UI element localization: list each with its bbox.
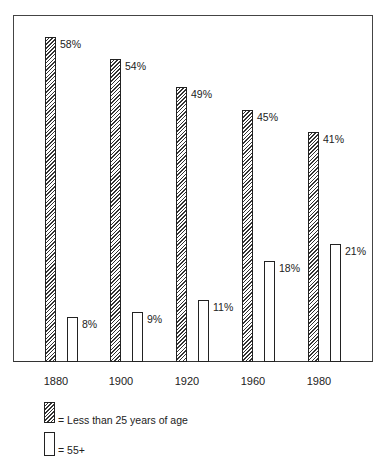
value-label-1960-55-plus: 18% <box>279 262 300 274</box>
x-tick-1900: 1900 <box>101 375 141 387</box>
bar-1960-under-25 <box>242 110 253 362</box>
x-tick-1880: 1880 <box>36 375 76 387</box>
x-tick-1960: 1960 <box>233 375 273 387</box>
legend-label-55-plus: = 55+ <box>58 444 85 456</box>
value-label-1960-under-25: 45% <box>257 111 278 123</box>
value-label-1920-under-25: 49% <box>191 88 212 100</box>
value-label-1900-55-plus: 9% <box>147 313 162 325</box>
bar-1960-55-plus <box>264 261 275 362</box>
bar-1920-55-plus <box>198 300 209 362</box>
x-tick-1920: 1920 <box>167 375 207 387</box>
bar-1980-under-25 <box>308 132 319 362</box>
value-label-1880-55-plus: 8% <box>82 318 97 330</box>
bar-1880-under-25 <box>45 37 56 362</box>
value-label-1880-under-25: 58% <box>60 38 81 50</box>
value-label-1900-under-25: 54% <box>125 60 146 72</box>
value-label-1980-under-25: 41% <box>323 133 344 145</box>
bar-1980-55-plus <box>330 244 341 362</box>
bar-1920-under-25 <box>176 87 187 362</box>
legend-swatch-55-plus <box>44 432 55 456</box>
bar-1900-55-plus <box>132 312 143 362</box>
bar-1880-55-plus <box>67 317 78 362</box>
legend-swatch-under-25 <box>44 402 55 423</box>
legend-label-under-25: = Less than 25 years of age <box>58 414 188 426</box>
x-tick-1980: 1980 <box>299 375 339 387</box>
chart-frame <box>13 15 373 362</box>
bar-1900-under-25 <box>110 59 121 362</box>
value-label-1980-55-plus: 21% <box>345 245 366 257</box>
value-label-1920-55-plus: 11% <box>213 301 233 313</box>
